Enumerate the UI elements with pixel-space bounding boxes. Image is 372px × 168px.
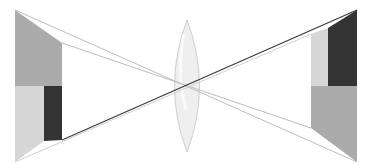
image-top-light-panel bbox=[311, 28, 328, 86]
lens-projection-diagram bbox=[0, 0, 372, 168]
object-figure bbox=[15, 10, 62, 162]
image-figure bbox=[311, 10, 357, 162]
image-bottom-panel bbox=[311, 86, 357, 162]
object-top-panel bbox=[15, 10, 62, 86]
object-bottom-light-panel bbox=[15, 86, 44, 162]
object-bottom-dark-panel bbox=[44, 86, 62, 141]
